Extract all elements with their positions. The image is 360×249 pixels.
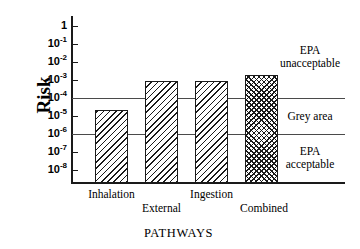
tick-mantissa: 10 — [48, 127, 60, 139]
y-tick-mark — [72, 26, 78, 27]
y-tick-label-1e-2: 10-2 — [20, 56, 67, 68]
y-tick-mark — [72, 44, 78, 45]
tick-exponent: -2 — [60, 53, 67, 62]
tick-exponent: -3 — [60, 71, 67, 80]
zone-label-line1: EPA — [264, 145, 356, 158]
tick-exponent: -7 — [60, 143, 67, 152]
zone-label-line1: EPA — [264, 44, 356, 57]
tick-mantissa: 10 — [48, 37, 60, 49]
tick-exponent: -5 — [60, 107, 67, 116]
bar-inhalation — [95, 110, 128, 183]
x-category-label-inhalation: Inhalation — [76, 188, 147, 200]
bar-ingestion — [195, 81, 228, 183]
y-tick-label-1e-6: 10-6 — [20, 128, 67, 140]
y-tick-label-group: 1 10-1 10-2 10-3 10-4 10-5 10-6 10-7 10-… — [20, 0, 67, 249]
tick-exponent: -6 — [60, 125, 67, 134]
tick-exponent: -8 — [60, 161, 67, 170]
risk-pathways-bar-chart: Risk 1 10-1 10-2 10-3 10-4 10-5 10-6 10-… — [0, 0, 360, 249]
tick-mantissa: 10 — [48, 145, 60, 157]
y-tick-label-1e-8: 10-8 — [20, 164, 67, 176]
tick-mantissa: 10 — [48, 55, 60, 67]
y-tick-label-1e-4: 10-4 — [20, 92, 67, 104]
y-tick-label-1: 1 — [20, 20, 67, 32]
x-axis-title: PATHWAYS — [71, 226, 286, 241]
tick-mantissa: 1 — [61, 19, 67, 31]
tick-mantissa: 10 — [48, 73, 60, 85]
y-tick-label-1e-5: 10-5 — [20, 110, 67, 122]
y-tick-mark — [72, 62, 78, 63]
y-tick-mark — [72, 170, 78, 171]
tick-mantissa: 10 — [48, 91, 60, 103]
y-tick-label-1e-1: 10-1 — [20, 38, 67, 50]
tick-mantissa: 10 — [48, 163, 60, 175]
y-tick-label-1e-7: 10-7 — [20, 146, 67, 158]
y-tick-mark — [72, 116, 78, 117]
zone-label-epa-unacceptable: EPA unacceptable — [264, 44, 356, 70]
zone-label-epa-acceptable: EPA acceptable — [264, 145, 356, 171]
x-category-label-external: External — [128, 202, 195, 214]
y-tick-mark — [72, 152, 78, 153]
tick-exponent: -4 — [60, 89, 67, 98]
x-category-label-ingestion: Ingestion — [180, 188, 243, 200]
x-category-label-combined: Combined — [228, 202, 300, 214]
zone-label-line2: acceptable — [264, 158, 356, 171]
tick-mantissa: 10 — [48, 109, 60, 121]
y-tick-mark — [72, 80, 78, 81]
bar-external — [145, 81, 178, 183]
zone-label-line1: Grey area — [264, 110, 356, 123]
y-tick-label-1e-3: 10-3 — [20, 74, 67, 86]
tick-exponent: -1 — [60, 35, 67, 44]
zone-label-grey-area: Grey area — [264, 110, 356, 123]
y-axis-line — [71, 16, 73, 183]
zone-label-line2: unacceptable — [264, 57, 356, 70]
